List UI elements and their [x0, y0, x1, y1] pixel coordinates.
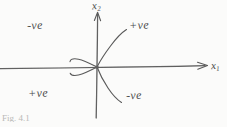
- figure-caption: Fig. 4.1: [2, 113, 30, 122]
- quadrant-label-bottom-right: -ve: [126, 88, 143, 104]
- figure-container: x1 x2 -ve +ve +ve -ve Fig. 4.1: [0, 0, 227, 127]
- x2-axis-label-subscript: 2: [97, 5, 101, 13]
- quadrant-label-top-right: +ve: [129, 17, 150, 33]
- curve-left-cusp-upper: [70, 59, 97, 67]
- x2-axis-label: x2: [91, 0, 101, 13]
- x1-axis-label: x1: [211, 59, 220, 74]
- x1-axis-label-subscript: 1: [216, 65, 220, 73]
- quadrant-label-bottom-left: +ve: [28, 85, 49, 101]
- quadrant-label-top-left: -ve: [27, 18, 44, 34]
- curve-lower-right-branch: [97, 67, 122, 103]
- curve-upper-right-branch: [97, 30, 127, 68]
